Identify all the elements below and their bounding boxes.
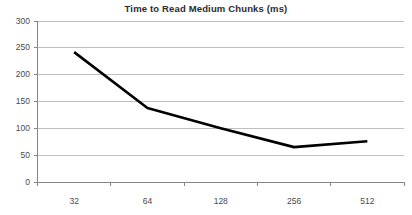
x-axis-tick-text: 256 (287, 196, 301, 206)
x-axis-tick-label-128: 128 (191, 190, 251, 208)
x-axis-tick-text: 512 (360, 196, 374, 206)
x-axis-tick-text: 128 (214, 196, 228, 206)
x-axis-labels: 3264128256512 (0, 0, 412, 215)
x-axis-tick-label-512: 512 (337, 190, 397, 208)
x-axis-tick-label-64: 64 (117, 190, 177, 208)
x-axis-tick-text: 32 (69, 196, 78, 206)
x-axis-tick-label-256: 256 (264, 190, 324, 208)
x-axis-tick-text: 64 (143, 196, 152, 206)
chart-container: Time to Read Medium Chunks (ms) 05010015… (0, 0, 412, 215)
x-axis-tick-label-32: 32 (44, 190, 104, 208)
